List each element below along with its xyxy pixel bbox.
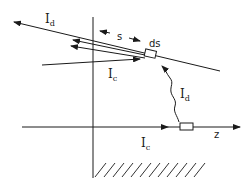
z-axis-label: z [214, 129, 219, 140]
element-ds-box [144, 49, 156, 58]
separation-label: s [117, 31, 122, 42]
separation-arrow-right [129, 38, 140, 41]
direct-path-line [14, 22, 220, 71]
label-ic-upper: Ic [108, 67, 118, 83]
element-box-bottom [180, 123, 193, 130]
element-ds-label: ds [149, 38, 161, 49]
wavy-path [162, 66, 179, 122]
label-id-wave: Id [180, 87, 190, 103]
separation-arrow-left [100, 31, 110, 33]
label-ic-lower: Ic [141, 136, 151, 152]
incident-ray [42, 59, 140, 65]
label-id-top: Id [45, 12, 55, 28]
diagram-canvas: s ds z Id Ic Id Ic [0, 0, 250, 195]
ground-hatching [95, 163, 205, 177]
reflected-ray-1 [73, 40, 145, 55]
